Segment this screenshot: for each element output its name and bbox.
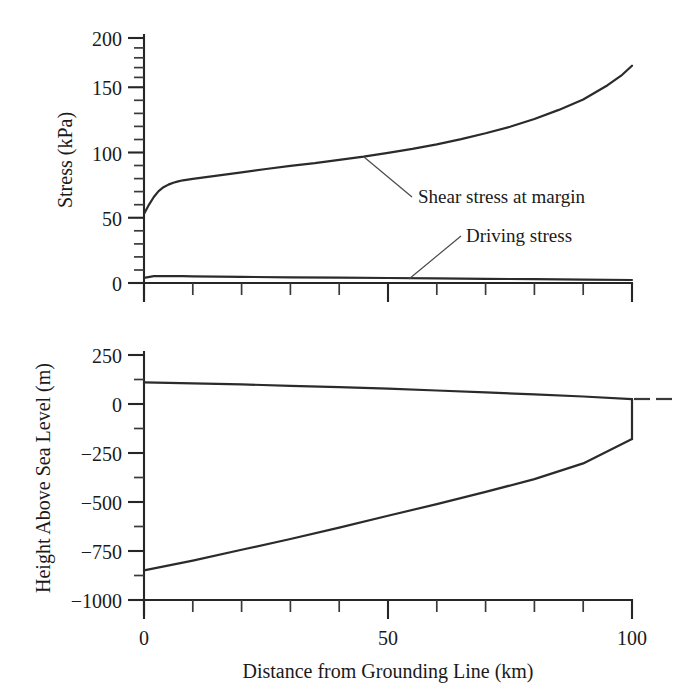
stress-ytick-100: 100 xyxy=(92,143,122,165)
stress-panel-ylabel: Stress (kPa) xyxy=(54,112,77,208)
stress-ytick-200: 200 xyxy=(92,28,122,50)
ice-base-curve xyxy=(144,439,632,570)
geometry-ytick-minus1000: −1000 xyxy=(71,590,122,612)
driving-stress-leader-line xyxy=(409,236,461,279)
figure-canvas: 0 50 100 150 200 Stress (kPa) Shear stre… xyxy=(0,0,695,695)
stress-panel: 0 50 100 150 200 Stress (kPa) Shear stre… xyxy=(54,28,632,302)
geometry-xtick-50: 50 xyxy=(378,627,398,649)
geometry-ytick-250: 250 xyxy=(92,345,122,367)
geometry-panel-ylabel: Height Above Sea Level (m) xyxy=(32,363,55,593)
driving-stress-curve xyxy=(144,276,632,280)
ice-surface-curve xyxy=(144,382,632,399)
geometry-ytick-minus250: −250 xyxy=(81,443,122,465)
geometry-xtick-100: 100 xyxy=(617,627,647,649)
geometry-panel-x-ticks xyxy=(144,600,632,619)
stress-panel-y-minor-ticks xyxy=(134,48,144,270)
geometry-panel: 250 0 −250 −500 −750 −1000 0 50 100 Heig… xyxy=(32,345,672,683)
stress-panel-y-major-ticks xyxy=(128,38,144,283)
geometry-ytick-minus500: −500 xyxy=(81,492,122,514)
stress-panel-x-ticks xyxy=(144,283,632,302)
shear-stress-annotation: Shear stress at margin xyxy=(418,186,585,207)
stress-ytick-50: 50 xyxy=(102,208,122,230)
geometry-xtick-0: 0 xyxy=(139,627,149,649)
geometry-panel-xlabel: Distance from Grounding Line (km) xyxy=(242,660,533,683)
geometry-ytick-minus750: −750 xyxy=(81,541,122,563)
shear-stress-leader-line xyxy=(364,157,412,197)
stress-ytick-150: 150 xyxy=(92,77,122,99)
geometry-panel-y-minor-ticks xyxy=(134,380,144,576)
driving-stress-annotation: Driving stress xyxy=(466,225,572,246)
figure-root: 0 50 100 150 200 Stress (kPa) Shear stre… xyxy=(0,0,695,695)
stress-ytick-0: 0 xyxy=(112,273,122,295)
geometry-ytick-0: 0 xyxy=(112,394,122,416)
